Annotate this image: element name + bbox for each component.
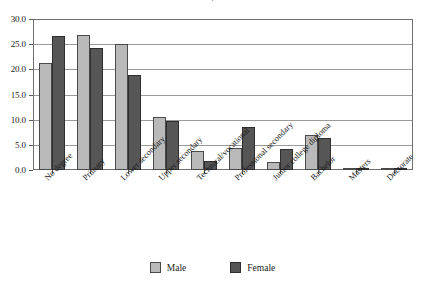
y-tick-label: 25.0 [11, 40, 26, 49]
chart-legend: Male Female [0, 262, 425, 273]
legend-label-male: Male [167, 263, 187, 273]
x-axis-labels: No degreePrimaryLower secondaryUpper sec… [0, 170, 425, 250]
y-tick-label: 10.0 [11, 115, 26, 124]
legend-label-female: Female [247, 263, 275, 273]
y-axis: 30.025.020.015.010.05.00.0 [0, 19, 30, 170]
gridline [34, 120, 412, 121]
gridline [34, 69, 412, 70]
y-tick-label: 30.0 [11, 15, 26, 24]
legend-entry-female[interactable]: Female [230, 262, 275, 273]
y-tick-label: 15.0 [11, 90, 26, 99]
chart-title-fragment: y [0, 0, 425, 1]
legend-swatch-male-icon [150, 262, 161, 273]
gridline [34, 44, 412, 45]
y-tick-label: 20.0 [11, 65, 26, 74]
y-tick-label: 5.0 [15, 140, 26, 149]
bar-chart-figure: y 30.025.020.015.010.05.00.0 No degreePr… [0, 0, 425, 291]
gridline [34, 95, 412, 96]
legend-swatch-female-icon [230, 262, 241, 273]
legend-entry-male[interactable]: Male [150, 262, 187, 273]
